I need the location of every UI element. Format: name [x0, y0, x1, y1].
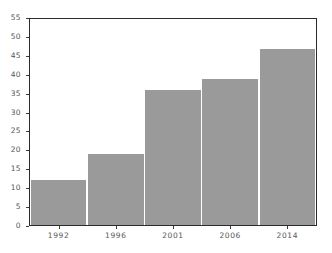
bar-chart-figure: 5550454035302520151050 19921996200120062… [0, 0, 332, 253]
bar-slot [202, 19, 257, 225]
x-axis-tick-mark [59, 226, 60, 229]
x-axis-tick-mark [287, 226, 288, 229]
y-axis-tick-mark [26, 18, 29, 19]
y-axis-tick-label: 20 [11, 145, 21, 154]
y-axis-tick-label: 45 [11, 51, 21, 60]
y-axis-tick-label: 40 [11, 70, 21, 79]
y-axis-tick-label: 50 [11, 32, 21, 41]
y-axis-tick-label: 10 [11, 183, 21, 192]
x-axis-tick-label: 1996 [88, 231, 143, 240]
y-axis-tick-label: 15 [11, 164, 21, 173]
x-axis-labels: 19921996200120062014 [30, 231, 316, 240]
x-axis-tick-mark [230, 226, 231, 229]
y-axis-tick-label: 30 [11, 108, 21, 117]
x-axis-tick-mark [173, 226, 174, 229]
x-axis-tick-label: 1992 [31, 231, 86, 240]
bar [88, 154, 143, 225]
x-axis-tick-label: 2014 [260, 231, 315, 240]
y-axis-tick-mark [26, 37, 29, 38]
x-axis-tick-mark [116, 226, 117, 229]
y-axis-tick-label: 0 [16, 221, 21, 230]
x-axis-tick-label: 2001 [145, 231, 200, 240]
y-axis-tick-mark [26, 188, 29, 189]
y-axis-tick-label: 25 [11, 126, 21, 135]
bar [145, 90, 200, 225]
x-axis-tick-label: 2006 [202, 231, 257, 240]
bar-slot [145, 19, 200, 225]
bars-layer [30, 19, 316, 225]
y-axis-tick-mark [26, 75, 29, 76]
y-axis-tick-mark [26, 113, 29, 114]
bar-slot [260, 19, 315, 225]
bar-slot [88, 19, 143, 225]
y-axis-tick-label: 5 [16, 202, 21, 211]
y-axis-tick-label: 35 [11, 89, 21, 98]
y-axis-tick-mark [26, 207, 29, 208]
bar [202, 79, 257, 225]
bar-slot [31, 19, 86, 225]
bar [31, 180, 86, 225]
y-axis-tick-mark [26, 56, 29, 57]
y-axis-tick-mark [26, 150, 29, 151]
y-axis-tick-label: 55 [11, 13, 21, 22]
y-axis-tick-mark [26, 94, 29, 95]
y-axis-tick-mark [26, 131, 29, 132]
y-axis-tick-mark [26, 226, 29, 227]
y-axis-tick-mark [26, 169, 29, 170]
bar [260, 49, 315, 225]
